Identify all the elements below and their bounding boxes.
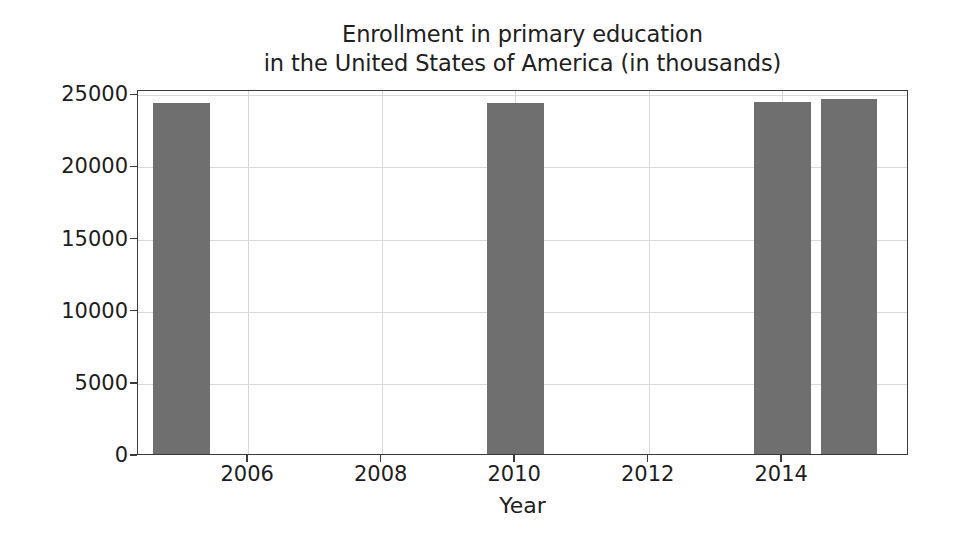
bar [754,102,811,454]
x-axis-title: Year [137,492,908,520]
x-axis-tick-labels: 20062008201020122014 [137,461,908,493]
y-tick-label: 25000 [18,84,128,105]
y-axis-tick-marks [130,90,138,455]
y-tick-mark [130,238,137,239]
bar [821,99,878,454]
gridline-horizontal [138,95,907,96]
x-tick-label: 2014 [716,461,846,487]
chart-figure: Enrollment in primary education in the U… [0,0,966,535]
y-tick-label: 0 [18,445,128,466]
x-tick-label: 2012 [583,461,713,487]
y-tick-mark [130,310,137,311]
plot-area [137,90,908,455]
y-tick-mark [130,382,137,383]
y-tick-label: 10000 [18,300,128,321]
x-tick-label: 2010 [449,461,579,487]
bar [487,103,544,454]
y-tick-mark [130,166,137,167]
y-axis-tick-labels: 0500010000150002000025000 [10,90,128,455]
x-tick-label: 2008 [316,461,446,487]
bar [153,103,210,454]
gridline-vertical [248,91,249,454]
y-tick-label: 5000 [18,372,128,393]
gridline-vertical [382,91,383,454]
gridline-vertical [649,91,650,454]
y-tick-mark [130,94,137,95]
y-tick-label: 20000 [18,156,128,177]
x-tick-label: 2006 [182,461,312,487]
y-tick-label: 15000 [18,228,128,249]
chart-title: Enrollment in primary education in the U… [137,20,908,78]
y-tick-mark [130,454,137,455]
